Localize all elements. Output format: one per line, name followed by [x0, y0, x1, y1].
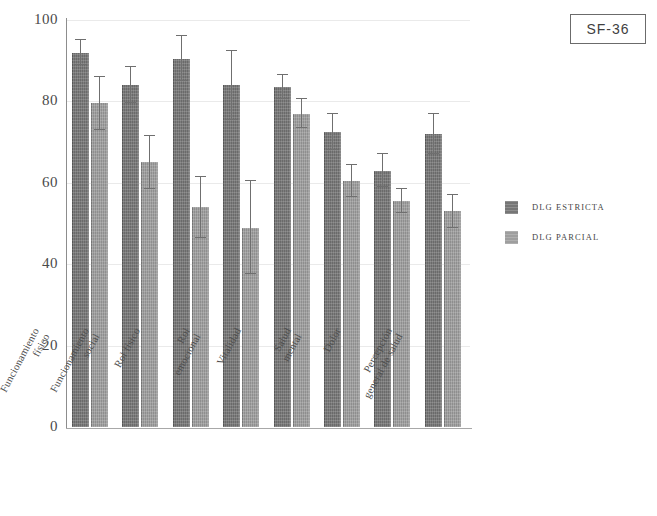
error-bar-cap-lower	[75, 64, 86, 65]
bar-group	[425, 20, 461, 427]
error-bar-cap-upper	[428, 113, 439, 114]
error-bar-line	[80, 40, 81, 64]
error-bar-cap-lower	[428, 153, 439, 154]
sf36-bar-chart-figure: SF-36 100806040200 Funcionamiento físico…	[0, 0, 657, 516]
error-bar-cap-lower	[245, 273, 256, 274]
error-bar-cap-upper	[176, 35, 187, 36]
error-bar-cap-lower	[125, 102, 136, 103]
error-bar-cap-upper	[396, 188, 407, 189]
y-axis-tick-80: 80	[12, 93, 58, 108]
error-bar-cap-upper	[377, 153, 388, 154]
error-bar-line	[231, 51, 232, 120]
error-bar-line	[130, 67, 131, 104]
error-bar-cap-lower	[396, 212, 407, 213]
error-bar-cap-lower	[144, 188, 155, 189]
error-bar-cap-upper	[447, 194, 458, 195]
error-bar-cap-upper	[226, 50, 237, 51]
error-bar-line	[149, 136, 150, 189]
error-bar-cap-upper	[75, 39, 86, 40]
error-bar-cap-upper	[245, 180, 256, 181]
legend-label: DLG PARCIAL	[532, 232, 599, 242]
error-bar-cap-upper	[327, 113, 338, 114]
error-bar-cap-lower	[94, 129, 105, 130]
error-bar-cap-lower	[195, 237, 206, 238]
error-bar-line	[433, 114, 434, 155]
legend-swatch	[505, 201, 518, 214]
error-bar-line	[351, 165, 352, 198]
error-bar-line	[181, 36, 182, 81]
error-bar-cap-lower	[226, 119, 237, 120]
error-bar-cap-lower	[447, 227, 458, 228]
bar-group	[223, 20, 259, 427]
error-bar-cap-upper	[144, 135, 155, 136]
error-bar-cap-lower	[346, 196, 357, 197]
bar-group	[122, 20, 158, 427]
error-bar-line	[301, 99, 302, 127]
sf36-title-text: SF-36	[586, 21, 629, 37]
legend-label: DLG ESTRICTA	[532, 202, 605, 212]
error-bar-cap-upper	[94, 76, 105, 77]
error-bar-cap-upper	[277, 74, 288, 75]
error-bar-cap-upper	[296, 98, 307, 99]
y-axis-tick-60: 60	[12, 175, 58, 190]
error-bar-cap-lower	[277, 98, 288, 99]
error-bar	[122, 67, 139, 427]
error-bar-line	[200, 177, 201, 238]
legend: DLG ESTRICTADLG PARCIAL	[505, 192, 655, 252]
y-axis-tick-40: 40	[12, 256, 58, 271]
error-bar-line	[382, 154, 383, 187]
y-axis-tick-100: 100	[12, 12, 58, 27]
error-bar-line	[452, 195, 453, 228]
error-bar-cap-lower	[176, 80, 187, 81]
bar-group	[324, 20, 360, 427]
error-bar-cap-lower	[296, 127, 307, 128]
error-bar-cap-lower	[377, 186, 388, 187]
error-bar	[425, 114, 442, 427]
error-bar	[393, 189, 410, 427]
error-bar-line	[99, 77, 100, 130]
legend-item: DLG ESTRICTA	[505, 192, 655, 222]
error-bar-cap-upper	[125, 66, 136, 67]
error-bar-line	[401, 189, 402, 213]
error-bar-cap-upper	[195, 176, 206, 177]
error-bar	[324, 114, 341, 427]
error-bar-cap-lower	[327, 149, 338, 150]
error-bar-line	[332, 114, 333, 151]
legend-item: DLG PARCIAL	[505, 222, 655, 252]
error-bar-cap-upper	[346, 164, 357, 165]
error-bar	[444, 195, 461, 427]
error-bar-line	[250, 181, 251, 275]
error-bar	[223, 51, 240, 427]
legend-swatch	[505, 231, 518, 244]
sf36-title-badge: SF-36	[570, 14, 646, 44]
error-bar-line	[282, 75, 283, 99]
